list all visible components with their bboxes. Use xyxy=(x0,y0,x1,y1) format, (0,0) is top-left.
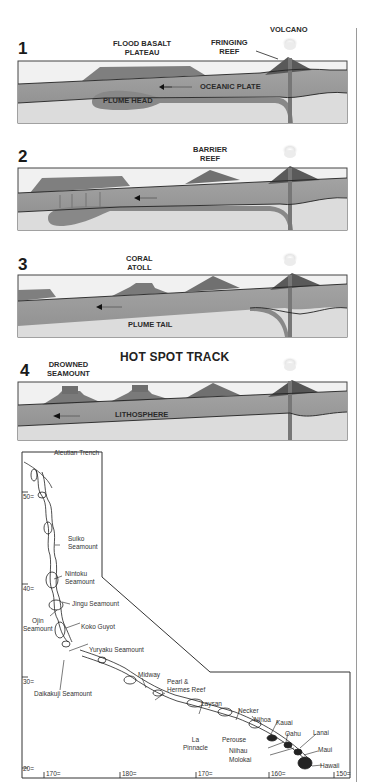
lithosphere-label: LITHOSPHERE xyxy=(115,411,168,420)
coral-atoll-label: CORAL ATOLL xyxy=(126,255,153,272)
lat-tick-40: 40= xyxy=(23,585,34,592)
daikakuji-seamount-label: Daikakuji Seamount xyxy=(34,690,92,698)
hotspot-diagram-art xyxy=(0,0,366,782)
yuryaku-seamount-label: Yuryaku Seamount xyxy=(89,646,144,654)
perouse-label: Perouse xyxy=(222,736,246,744)
suiko-seamount-label: Suiko Seamount xyxy=(68,535,98,550)
lat-tick-50: 50= xyxy=(23,493,34,500)
lanai-label: Lanai xyxy=(313,729,329,737)
oahu-label: Oahu xyxy=(285,730,301,738)
panel-2-number: 2 xyxy=(18,148,27,165)
panel-4-number: 4 xyxy=(20,362,29,379)
oceanic-plate-label: OCEANIC PLATE xyxy=(200,83,261,92)
jingu-seamount-label: Jingu Seamount xyxy=(72,600,119,608)
ojin-seamount-label: Ojin Seamount xyxy=(23,617,53,632)
aleutian-trench-label: Aleutian Trench xyxy=(54,449,99,457)
hawaii-label: Hawaii xyxy=(320,762,340,770)
lon-tick-180: 180= xyxy=(122,770,137,777)
flood-basalt-plateau-label: FLOOD BASALT PLATEAU xyxy=(113,40,171,57)
lat-tick-20: 20= xyxy=(23,765,34,772)
lon-tick-170w: 170= xyxy=(46,770,61,777)
maui-label: Maui xyxy=(318,746,332,754)
fringing-reef-label: FRINGING REEF xyxy=(211,39,248,56)
lon-tick-160: 160= xyxy=(271,770,286,777)
midway-label: Midway xyxy=(138,671,160,679)
panel-3 xyxy=(18,252,347,337)
drowned-seamount-label: DROWNED SEAMOUNT xyxy=(47,361,90,378)
volcano-label: VOLCANO xyxy=(270,26,308,35)
lon-tick-150: 150= xyxy=(336,770,351,777)
panel-2 xyxy=(18,144,347,230)
panel-1-number: 1 xyxy=(18,40,27,57)
kauai-label: Kauai xyxy=(276,719,293,727)
lon-tick-170e: 170= xyxy=(198,770,213,777)
la-pinnacle-label: La Pinnacle xyxy=(183,736,208,751)
plume-head-label: PLUME HEAD xyxy=(103,97,153,106)
nihoa-label: Nihoa xyxy=(254,716,271,724)
barrier-reef-label: BARRIER REEF xyxy=(193,146,227,163)
plume-tail-label: PLUME TAIL xyxy=(128,321,172,330)
panel-3-number: 3 xyxy=(18,256,27,273)
pearl-hermes-reef-label: Pearl & Hermes Reef xyxy=(167,678,205,693)
koko-guyot-label: Koko Guyot xyxy=(81,623,115,631)
nintoku-seamount-label: Nintoku Seamount xyxy=(65,570,95,585)
lat-tick-30: 30= xyxy=(23,678,34,685)
necker-label: Necker xyxy=(238,707,259,715)
niihau-label: Niihau xyxy=(229,747,247,755)
hot-spot-track-title: HOT SPOT TRACK xyxy=(120,350,229,364)
molokai-label: Molokai xyxy=(229,756,251,764)
panel-1 xyxy=(18,37,347,123)
laysan-label: Laysan xyxy=(201,700,222,708)
